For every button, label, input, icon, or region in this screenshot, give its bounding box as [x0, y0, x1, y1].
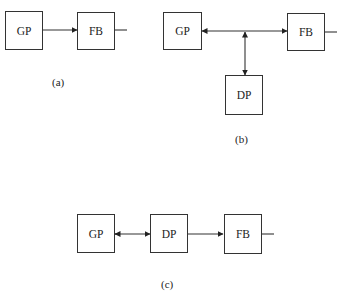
node-label: FB: [236, 228, 250, 240]
node-a-gp: GP: [5, 11, 43, 50]
node-c-dp: DP: [150, 214, 188, 253]
node-c-fb: FB: [224, 214, 262, 254]
node-b-dp: DP: [225, 75, 263, 115]
node-label: GP: [17, 25, 32, 37]
node-label: DP: [237, 89, 252, 101]
caption-c: (c): [161, 278, 173, 290]
node-label: GP: [89, 228, 104, 240]
node-label: FB: [89, 25, 103, 37]
caption-a: (a): [52, 76, 64, 88]
node-label: FB: [299, 26, 313, 38]
node-b-fb: FB: [287, 13, 325, 51]
caption-b: (b): [235, 133, 248, 145]
node-label: DP: [162, 228, 177, 240]
node-a-fb: FB: [77, 12, 115, 50]
node-label: GP: [175, 25, 190, 37]
node-b-gp: GP: [163, 12, 202, 50]
node-c-gp: GP: [77, 214, 115, 253]
